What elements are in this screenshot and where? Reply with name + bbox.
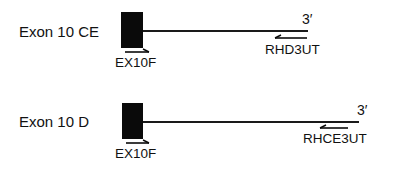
- transcript-line: [143, 121, 359, 123]
- forward-primer-label: EX10F: [115, 147, 156, 161]
- three-prime-end-label: 3′: [357, 103, 367, 117]
- exon-box: [121, 12, 143, 48]
- construct-exon-10-d: Exon 10 D 3′ EX10F RHCE3UT: [0, 85, 394, 169]
- construct-label: Exon 10 D: [19, 114, 89, 129]
- three-prime-end-label: 3′: [302, 12, 312, 26]
- reverse-primer-arrow-icon: [273, 34, 309, 42]
- transcript-line: [143, 30, 308, 32]
- forward-primer-label: EX10F: [115, 56, 156, 70]
- reverse-primer-label: RHCE3UT: [303, 132, 367, 146]
- reverse-primer-label: RHD3UT: [265, 43, 320, 57]
- construct-exon-10-ce: Exon 10 CE 3′ EX10F RHD3UT: [0, 0, 394, 85]
- exon-box: [122, 103, 143, 139]
- construct-label: Exon 10 CE: [19, 24, 99, 39]
